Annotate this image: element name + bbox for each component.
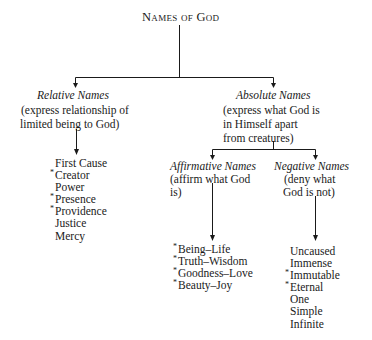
name-item-label: Goodness–Love bbox=[178, 267, 253, 279]
negative-description-line: God is not) bbox=[283, 186, 335, 198]
name-item: Simple bbox=[290, 305, 340, 317]
name-item: Justice bbox=[55, 217, 107, 229]
name-item-label: First Cause bbox=[55, 157, 107, 169]
name-item-label: Truth–Wisdom bbox=[178, 255, 247, 267]
name-item-label: Providence bbox=[55, 205, 107, 217]
name-item-label: Beauty–Joy bbox=[178, 279, 232, 291]
relative-description-line: limited being to God) bbox=[20, 118, 119, 130]
relative-heading: Relative Names bbox=[37, 89, 109, 101]
name-item: One bbox=[290, 293, 340, 305]
absolute-description-line: in Himself apart bbox=[223, 118, 298, 130]
asterisk-marker-icon: * bbox=[50, 167, 54, 179]
affirmative-names-list: *Being–Life*Truth–Wisdom*Goodness–Love*B… bbox=[178, 243, 253, 291]
name-item-label: Infinite bbox=[290, 318, 324, 330]
asterisk-marker-icon: * bbox=[50, 191, 54, 203]
name-item: Uncaused bbox=[290, 245, 340, 257]
name-item-label: Justice bbox=[55, 217, 86, 229]
absolute-description-line: from creatures) bbox=[223, 132, 294, 144]
negative-description-line: (deny what bbox=[284, 173, 335, 185]
name-item: Immense bbox=[290, 257, 340, 269]
name-item: *Beauty–Joy bbox=[178, 279, 253, 291]
name-item: *Presence bbox=[55, 193, 107, 205]
negative-heading: Negative Names bbox=[274, 160, 349, 172]
asterisk-marker-icon: * bbox=[173, 277, 177, 289]
relative-names-list: First Cause*CreatorPower*Presence*Provid… bbox=[55, 157, 107, 242]
asterisk-marker-icon: * bbox=[173, 241, 177, 253]
name-item-label: Simple bbox=[290, 305, 323, 317]
name-item: *Goodness–Love bbox=[178, 267, 253, 279]
affirmative-description-line: is) bbox=[170, 186, 182, 198]
absolute-heading: Absolute Names bbox=[236, 89, 310, 101]
affirmative-description-line: (affirm what God bbox=[170, 173, 250, 185]
name-item-label: Eternal bbox=[290, 281, 323, 293]
name-item: First Cause bbox=[55, 157, 107, 169]
name-item-label: Uncaused bbox=[290, 245, 335, 257]
arrowhead bbox=[210, 235, 215, 241]
name-item: Infinite bbox=[290, 318, 340, 330]
name-item-label: Being–Life bbox=[178, 243, 230, 255]
asterisk-marker-icon: * bbox=[285, 267, 289, 279]
name-item: *Immutable bbox=[290, 269, 340, 281]
relative-description-line: (express relationship of bbox=[21, 104, 129, 116]
name-item: *Creator bbox=[55, 169, 107, 181]
asterisk-marker-icon: * bbox=[285, 279, 289, 291]
affirmative-heading: Affirmative Names bbox=[170, 160, 256, 172]
name-item-label: One bbox=[290, 293, 309, 305]
name-item-label: Mercy bbox=[55, 230, 85, 242]
arrowhead bbox=[313, 235, 318, 241]
name-item-label: Immutable bbox=[290, 269, 340, 281]
asterisk-marker-icon: * bbox=[173, 265, 177, 277]
asterisk-marker-icon: * bbox=[50, 203, 54, 215]
absolute-description-line: (express what God is bbox=[223, 104, 320, 116]
diagram-title: Names of God bbox=[142, 11, 219, 23]
name-item: *Eternal bbox=[290, 281, 340, 293]
name-item: Power bbox=[55, 181, 107, 193]
asterisk-marker-icon: * bbox=[173, 253, 177, 265]
arrowhead bbox=[74, 149, 79, 155]
name-item: *Truth–Wisdom bbox=[178, 255, 253, 267]
name-item: *Providence bbox=[55, 205, 107, 217]
name-item: *Being–Life bbox=[178, 243, 253, 255]
name-item-label: Presence bbox=[55, 193, 96, 205]
negative-names-list: UncausedImmense*Immutable*EternalOneSimp… bbox=[290, 245, 340, 330]
name-item-label: Power bbox=[55, 181, 84, 193]
name-item-label: Creator bbox=[55, 169, 89, 181]
name-item-label: Immense bbox=[290, 257, 332, 269]
arrowhead bbox=[73, 83, 78, 88]
arrowhead bbox=[271, 83, 276, 88]
name-item: Mercy bbox=[55, 230, 107, 242]
